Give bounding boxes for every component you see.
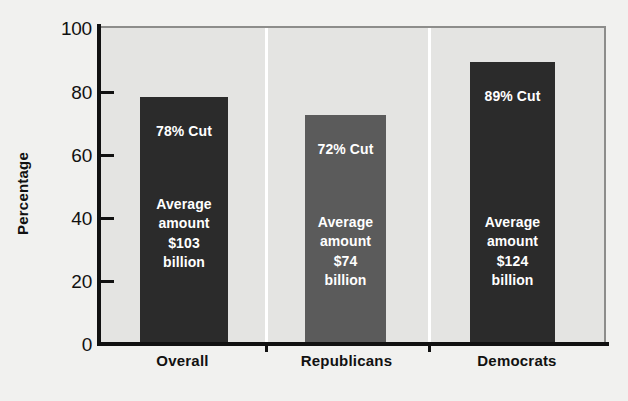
bar-democrats-cut-label: 89% Cut xyxy=(470,88,555,104)
x-label-republicans: Republicans xyxy=(265,352,428,369)
bar-overall-cut-label: 78% Cut xyxy=(140,123,228,139)
bar-overall-inner: 78% Cut Average amount $103 billion xyxy=(140,97,228,343)
bar-democrats-amount: Average amount $124 billion xyxy=(470,213,555,290)
chart-page: 78% Cut Average amount $103 billion 72% … xyxy=(0,0,628,401)
bar-republicans-amount-line4: billion xyxy=(305,271,386,290)
group-separator-tick-1 xyxy=(265,343,268,352)
x-label-democrats: Democrats xyxy=(428,352,606,369)
y-axis-line xyxy=(97,24,101,346)
bar-democrats-amount-line3: $124 xyxy=(470,252,555,271)
y-axis-title: Percentage xyxy=(14,114,31,274)
bar-republicans-amount-line3: $74 xyxy=(305,252,386,271)
group-separator-tick-2 xyxy=(428,343,431,352)
y-tick-60 xyxy=(101,154,114,157)
bar-democrats-amount-line4: billion xyxy=(470,271,555,290)
bar-republicans-cut-label: 72% Cut xyxy=(305,141,386,157)
plot-frame-right xyxy=(604,26,606,344)
bar-overall-amount-line4: billion xyxy=(140,253,228,272)
plot-area: 78% Cut Average amount $103 billion 72% … xyxy=(100,27,606,343)
x-label-overall: Overall xyxy=(100,352,265,369)
bar-democrats-amount-line1: Average xyxy=(470,213,555,232)
y-tick-80 xyxy=(101,91,114,94)
bar-overall-amount-line1: Average xyxy=(140,195,228,214)
bar-overall-amount-line2: amount xyxy=(140,214,228,233)
y-tick-40 xyxy=(101,217,114,220)
bar-republicans-inner: 72% Cut Average amount $74 billion xyxy=(305,115,386,343)
x-axis-line xyxy=(97,342,609,346)
group-separator-2 xyxy=(428,27,431,343)
bar-overall-amount-line3: $103 xyxy=(140,234,228,253)
y-label-100: 100 xyxy=(6,19,92,38)
bar-overall[interactable]: 78% Cut Average amount $103 billion xyxy=(140,97,228,343)
y-tick-20 xyxy=(101,280,114,283)
bar-democrats-amount-line2: amount xyxy=(470,232,555,251)
y-label-20: 20 xyxy=(6,272,92,291)
group-separator-1 xyxy=(265,27,268,343)
plot-frame-top xyxy=(100,26,606,28)
bar-republicans-amount: Average amount $74 billion xyxy=(305,213,386,290)
bar-republicans-amount-line1: Average xyxy=(305,213,386,232)
bar-democrats-inner: 89% Cut Average amount $124 billion xyxy=(470,62,555,343)
bar-republicans[interactable]: 72% Cut Average amount $74 billion xyxy=(305,115,386,343)
bar-overall-amount: Average amount $103 billion xyxy=(140,195,228,272)
bar-republicans-amount-line2: amount xyxy=(305,232,386,251)
y-label-80: 80 xyxy=(6,83,92,102)
y-label-0: 0 xyxy=(6,335,92,354)
bar-democrats[interactable]: 89% Cut Average amount $124 billion xyxy=(470,62,555,343)
